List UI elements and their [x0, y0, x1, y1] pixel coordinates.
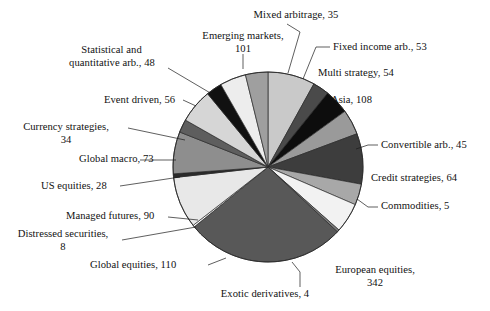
label-convertible-arb: Convertible arb., 45	[381, 139, 490, 151]
leader-line-statistical-arb	[168, 68, 212, 94]
label-global-equities: Global equities, 110	[90, 259, 230, 271]
leader-line-distressed-securities	[122, 227, 196, 240]
label-global-macro: Global macro, 73	[79, 153, 209, 165]
label-emerging-markets-line1: Emerging markets,	[177, 30, 309, 42]
label-distressed-securities-line2: 8	[1, 241, 125, 253]
label-credit-strategies: Credit strategies, 64	[371, 172, 490, 184]
label-asia: Asia, 108	[331, 94, 431, 106]
label-currency-strategies-line1: Currency strategies,	[4, 121, 128, 133]
label-statistical-arb-line1: Statistical and	[44, 44, 179, 56]
label-event-driven: Event driven, 56	[104, 94, 234, 106]
leader-line-commodities	[357, 199, 378, 207]
label-mixed-arbitrage: Mixed arbitrage, 35	[231, 9, 361, 21]
label-statistical-arb-line2: quantitative arb., 48	[37, 57, 187, 69]
leader-line-currency-strategies	[128, 128, 185, 140]
label-us-equities: US equities, 28	[41, 180, 161, 192]
label-currency-strategies-line2: 34	[4, 134, 128, 146]
label-commodities: Commodities, 5	[381, 200, 490, 212]
label-fixed-income-arb: Fixed income arb., 53	[333, 41, 483, 53]
pie-chart-figure: Mixed arbitrage, 35 Emerging markets, 10…	[0, 0, 490, 311]
label-distressed-securities-line1: Distressed securities,	[1, 228, 125, 240]
label-emerging-markets-line2: 101	[177, 43, 309, 55]
label-european-equities-line1: European equities,	[310, 264, 440, 276]
leader-line-exotic-derivatives	[292, 262, 300, 287]
label-exotic-derivatives: Exotic derivatives, 4	[170, 288, 360, 300]
label-multi-strategy: Multi strategy, 54	[318, 67, 448, 79]
label-managed-futures: Managed futures, 90	[66, 210, 206, 222]
